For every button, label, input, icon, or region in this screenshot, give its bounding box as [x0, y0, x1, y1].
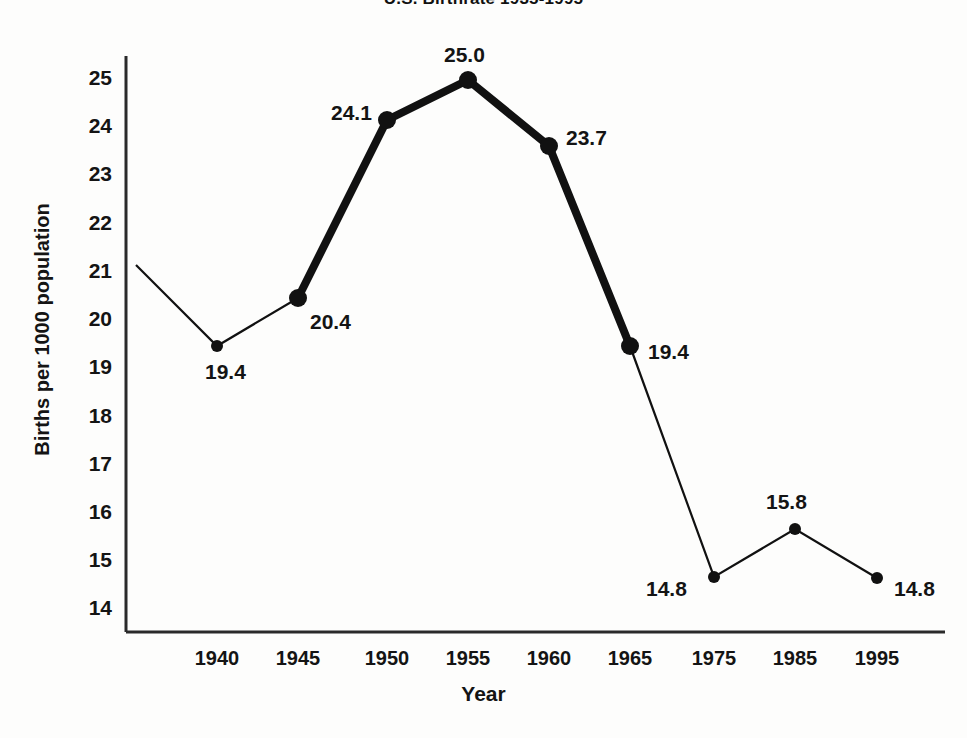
x-tick-1960: 1960: [504, 647, 594, 670]
y-tick-14: 14: [66, 596, 112, 620]
x-tick-1985: 1985: [750, 647, 840, 670]
data-point-1985[interactable]: [789, 523, 801, 535]
value-label-1945: 20.4: [310, 310, 351, 334]
y-tick-18: 18: [66, 404, 112, 428]
y-tick-19: 19: [66, 355, 112, 379]
value-label-1965: 19.4: [648, 340, 689, 364]
x-axis-label: Year: [0, 682, 967, 706]
y-tick-24: 24: [66, 114, 112, 138]
data-point-1950[interactable]: [378, 111, 396, 129]
x-tick-1940: 1940: [172, 647, 262, 670]
data-point-1945[interactable]: [289, 289, 307, 307]
data-point-1995[interactable]: [871, 572, 883, 584]
y-axis-label: Births per 1000 population: [31, 170, 54, 490]
chart-page: U.S. Birthrate 1935-1995 25 24 23 22 21 …: [0, 0, 967, 738]
x-tick-1945: 1945: [253, 647, 343, 670]
series-line-thin-early: [136, 265, 298, 346]
x-tick-1950: 1950: [342, 647, 432, 670]
x-tick-1975: 1975: [669, 647, 759, 670]
y-tick-16: 16: [66, 500, 112, 524]
value-label-1955: 25.0: [444, 43, 485, 67]
y-tick-17: 17: [66, 452, 112, 476]
data-point-1955[interactable]: [459, 71, 477, 89]
data-point-1975[interactable]: [708, 571, 720, 583]
y-tick-21: 21: [66, 259, 112, 283]
line-chart-plot: [0, 0, 967, 738]
x-tick-1995: 1995: [832, 647, 922, 670]
value-label-1975: 14.8: [646, 577, 687, 601]
value-label-1995: 14.8: [894, 577, 935, 601]
series-line-thin-late: [630, 346, 877, 578]
x-tick-1965: 1965: [585, 647, 675, 670]
value-label-1985: 15.8: [766, 490, 807, 514]
value-label-1950: 24.1: [331, 101, 372, 125]
value-label-1960: 23.7: [566, 126, 607, 150]
y-tick-23: 23: [66, 162, 112, 186]
y-tick-25: 25: [66, 66, 112, 90]
data-point-1960[interactable]: [540, 137, 558, 155]
y-tick-22: 22: [66, 211, 112, 235]
x-tick-1955: 1955: [423, 647, 513, 670]
data-point-1965[interactable]: [621, 337, 639, 355]
value-label-1940: 19.4: [205, 360, 246, 384]
y-tick-15: 15: [66, 548, 112, 572]
data-point-1940[interactable]: [211, 340, 223, 352]
y-tick-20: 20: [66, 307, 112, 331]
